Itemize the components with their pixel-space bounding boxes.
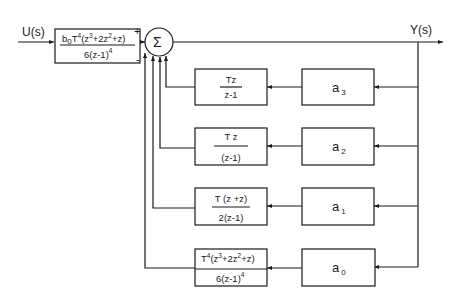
feedback-row-0: a0 T4(z3+2z2+z) 6(z-1)4 [145,53,418,286]
forward-block-denominator: 6(z-1)4 [84,47,113,60]
input-label: U(s) [22,25,45,39]
transfer-1-numerator: T (z +z) [215,193,247,204]
transfer-2-numerator: T z [224,131,237,142]
transfer-3-denominator: z-1 [224,89,237,100]
summing-junction: Σ [145,28,173,56]
feedback-row-3: a3 Tz z-1 [166,56,418,105]
output-label: Y(s) [410,23,432,37]
plus-sign: + [134,25,140,37]
forward-block-numerator: b0T4(z3+2z2+z) [62,32,125,46]
forward-block: b0T4(z3+2z2+z) 6(z-1)4 [55,29,140,63]
sigma-symbol: Σ [153,34,162,50]
transfer-3-numerator: Tz [226,74,237,85]
minus-sign: - [136,53,140,65]
block-diagram: U(s) b0T4(z3+2z2+z) 6(z-1)4 Σ + - Y(s) a… [0,0,449,303]
transfer-2-denominator: (z-1) [221,152,241,163]
feedback-row-1: a1 T (z +z) 2(z-1) [153,56,418,225]
transfer-0-denominator: 6(z-1)4 [216,271,245,284]
transfer-1-denominator: 2(z-1) [219,212,244,223]
